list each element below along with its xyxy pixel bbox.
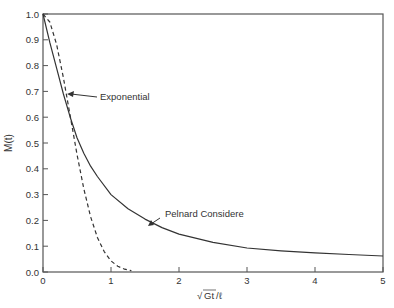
- x-axis-label: √ Gt /ℓ: [197, 290, 223, 301]
- y-tick-label: 0.5: [26, 138, 39, 149]
- x-tick-label: 1: [108, 275, 113, 286]
- series-lines: [43, 14, 383, 271]
- y-tick-label: 0.3: [26, 189, 39, 200]
- x-tick-label: 5: [380, 275, 385, 286]
- x-axis-ticks: 012345: [40, 267, 385, 286]
- series-pelnard-considere: [43, 14, 383, 256]
- x-tick-label: 4: [312, 275, 317, 286]
- y-axis-label: M(t): [3, 134, 14, 152]
- plot-frame: [43, 14, 383, 272]
- x-tick-label: 0: [40, 275, 45, 286]
- annotation-exponential: Exponential: [67, 91, 150, 102]
- y-tick-label: 0.1: [26, 241, 39, 252]
- x-label-tail: /ℓ: [216, 290, 223, 301]
- y-tick-label: 0.9: [26, 34, 39, 45]
- x-tick-label: 3: [244, 275, 249, 286]
- x-label-radical: √: [197, 290, 203, 301]
- y-tick-label: 0.7: [26, 86, 39, 97]
- y-tick-label: 0.2: [26, 215, 39, 226]
- y-axis-ticks: 0.00.10.20.30.40.50.60.70.80.91.0: [26, 9, 48, 278]
- y-tick-label: 0.0: [26, 267, 39, 278]
- annotation-pelnard: Pelnard Considere: [148, 208, 244, 226]
- y-tick-label: 1.0: [26, 9, 39, 20]
- x-tick-label: 2: [176, 275, 181, 286]
- series-exponential: [43, 14, 131, 271]
- chart: 0.00.10.20.30.40.50.60.70.80.91.0 012345…: [0, 0, 394, 308]
- annotation-exponential-text: Exponential: [100, 91, 150, 102]
- y-tick-label: 0.8: [26, 60, 39, 71]
- x-label-inner: Gt: [204, 290, 214, 301]
- y-tick-label: 0.4: [26, 163, 39, 174]
- y-tick-label: 0.6: [26, 112, 39, 123]
- annotation-pelnard-text: Pelnard Considere: [165, 208, 244, 219]
